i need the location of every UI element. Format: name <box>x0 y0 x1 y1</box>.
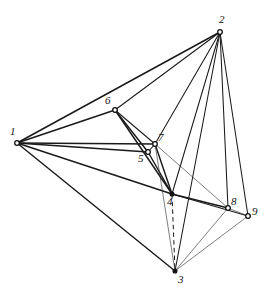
node-label-8: 8 <box>231 196 237 207</box>
graph-edge-1-3 <box>17 143 175 271</box>
node-label-4: 4 <box>167 196 173 207</box>
graph-vertex-2 <box>218 30 223 35</box>
graph-vertex-7 <box>153 142 158 147</box>
graph-canvas <box>0 0 275 295</box>
graph-vertex-3 <box>173 269 177 273</box>
node-label-2: 2 <box>219 14 225 25</box>
graph-vertex-1 <box>15 141 20 146</box>
graph-edge-2-3 <box>175 32 220 271</box>
graph-edge-2-7 <box>155 32 220 144</box>
graph-edge-7-3 <box>155 144 175 271</box>
graph-figure: 123456789 <box>0 0 275 295</box>
graph-edge-9-3 <box>175 216 248 271</box>
node-label-1: 1 <box>10 126 16 137</box>
node-label-5: 5 <box>138 153 144 164</box>
graph-vertex-5 <box>146 150 151 155</box>
graph-vertex-9 <box>246 214 251 219</box>
graph-edge-8-9 <box>228 208 248 216</box>
graph-vertex-6 <box>113 108 118 113</box>
graph-vertex-8 <box>226 206 231 211</box>
node-label-6: 6 <box>105 95 111 106</box>
graph-edge-1-2 <box>17 32 220 143</box>
node-label-3: 3 <box>178 274 184 285</box>
graph-edge-8-3 <box>175 208 228 271</box>
edge-layer <box>17 32 248 271</box>
node-label-9: 9 <box>252 206 258 217</box>
graph-edge-1-6 <box>17 110 115 143</box>
graph-edge-2-6 <box>115 32 220 110</box>
node-label-7: 7 <box>158 132 164 143</box>
graph-edge-2-4 <box>172 32 220 194</box>
